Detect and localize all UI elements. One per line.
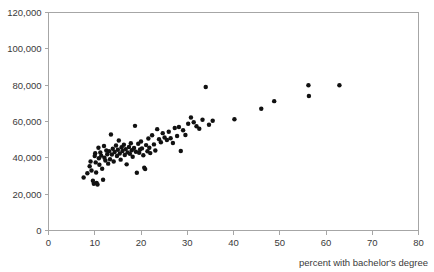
data-point — [147, 145, 151, 149]
data-point — [173, 126, 177, 130]
data-point — [85, 171, 89, 175]
data-point — [116, 147, 120, 151]
data-point — [140, 146, 144, 150]
data-point — [117, 138, 121, 142]
x-tick-label: 50 — [274, 237, 285, 248]
data-point — [307, 94, 311, 98]
data-point — [81, 175, 85, 179]
data-point — [210, 119, 214, 123]
data-point — [100, 167, 104, 171]
data-point — [102, 144, 106, 148]
data-point — [118, 157, 122, 161]
data-point — [106, 161, 110, 165]
data-point — [232, 117, 236, 121]
data-point — [183, 133, 187, 137]
data-point — [89, 168, 93, 172]
x-tick-label: 60 — [321, 237, 332, 248]
data-point — [175, 134, 179, 138]
data-point — [152, 142, 156, 146]
data-point — [272, 99, 276, 103]
x-tick-label: 0 — [46, 237, 51, 248]
y-tick-label: 120,000 — [7, 7, 41, 18]
data-point — [159, 140, 163, 144]
data-point — [139, 139, 143, 143]
data-point — [109, 132, 113, 136]
x-tick-label: 70 — [367, 237, 378, 248]
data-point — [259, 107, 263, 111]
data-point — [200, 117, 204, 121]
data-point — [101, 178, 105, 182]
data-point — [181, 128, 185, 132]
data-point — [124, 162, 128, 166]
data-point — [192, 120, 196, 124]
data-point — [94, 170, 98, 174]
data-point — [135, 171, 139, 175]
data-point — [95, 182, 99, 186]
data-point — [167, 129, 171, 133]
scatter-chart: 020,00040,00060,00080,000100,000120,000 … — [0, 0, 434, 272]
data-point — [130, 155, 134, 159]
data-point — [97, 163, 101, 167]
data-point — [108, 157, 112, 161]
data-point — [186, 121, 190, 125]
data-point — [207, 123, 211, 127]
data-point — [141, 153, 145, 157]
data-point — [148, 151, 152, 155]
y-tick-label: 100,000 — [7, 43, 41, 54]
x-tick-label: 10 — [89, 237, 100, 248]
data-point — [153, 148, 157, 152]
x-tick-label: 20 — [136, 237, 147, 248]
y-tick-label: 20,000 — [12, 189, 41, 200]
data-point — [155, 127, 159, 131]
data-point — [168, 136, 172, 140]
y-tick-label: 0 — [36, 225, 41, 236]
data-point — [177, 125, 181, 129]
x-axis-title: percent with bachelor's degree — [299, 257, 428, 268]
data-point — [197, 127, 201, 131]
data-point — [111, 159, 115, 163]
data-point — [129, 141, 133, 145]
data-point — [306, 83, 310, 87]
data-point — [204, 85, 208, 89]
chart-canvas: 020,00040,00060,00080,000100,000120,000 … — [0, 0, 434, 272]
y-tick-label: 40,000 — [12, 152, 41, 163]
chart-background — [0, 0, 434, 272]
data-point — [93, 160, 97, 164]
data-point — [93, 151, 97, 155]
data-point — [88, 159, 92, 163]
x-tick-label: 30 — [182, 237, 193, 248]
data-point — [179, 149, 183, 153]
data-point — [114, 143, 118, 147]
data-point — [337, 83, 341, 87]
data-point — [161, 131, 165, 135]
data-point — [143, 167, 147, 171]
data-point — [96, 146, 100, 150]
data-point — [150, 133, 154, 137]
y-tick-label: 80,000 — [12, 80, 41, 91]
data-point — [189, 115, 193, 119]
x-tick-label: 80 — [413, 237, 424, 248]
data-point — [122, 143, 126, 147]
data-point — [133, 124, 137, 128]
data-point — [146, 136, 150, 140]
x-tick-label: 40 — [228, 237, 239, 248]
data-point — [171, 141, 175, 145]
data-point — [87, 164, 91, 168]
y-tick-label: 60,000 — [12, 116, 41, 127]
